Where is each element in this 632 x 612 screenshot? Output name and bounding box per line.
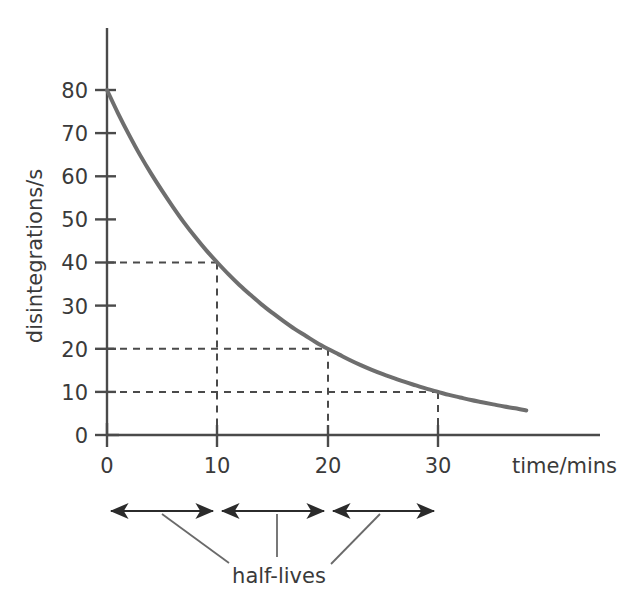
construction-lines <box>107 263 438 436</box>
x-tick-label-30: 30 <box>425 454 452 478</box>
y-tick-label-70: 70 <box>61 122 88 146</box>
y-axis-title: disintegrations/s <box>23 169 47 343</box>
y-tick-label-20: 20 <box>61 338 88 362</box>
x-tick-label-20: 20 <box>315 454 342 478</box>
half-lives-label: half-lives <box>232 564 326 588</box>
x-tick-label-0: 0 <box>100 454 113 478</box>
axes-group <box>107 28 600 435</box>
leader-line-right <box>331 514 380 564</box>
leader-line-left <box>162 514 229 563</box>
chart-canvas: 0 10 20 30 40 50 60 70 80 0 10 20 30 dis… <box>0 0 632 612</box>
y-tick-label-10: 10 <box>61 381 88 405</box>
decay-chart-figure: 0 10 20 30 40 50 60 70 80 0 10 20 30 dis… <box>0 0 632 612</box>
y-tick-label-60: 60 <box>61 165 88 189</box>
y-tick-label-30: 30 <box>61 295 88 319</box>
half-life-leader-lines <box>162 514 380 564</box>
y-tick-labels: 0 10 20 30 40 50 60 70 80 <box>61 79 88 448</box>
y-tick-label-0: 0 <box>75 424 88 448</box>
decay-curve <box>107 90 526 410</box>
y-tick-label-80: 80 <box>61 79 88 103</box>
y-tick-label-50: 50 <box>61 208 88 232</box>
x-tick-labels: 0 10 20 30 <box>100 454 451 478</box>
x-tick-label-10: 10 <box>204 454 231 478</box>
y-tick-label-40: 40 <box>61 251 88 275</box>
x-axis-title: time/mins <box>512 454 617 478</box>
